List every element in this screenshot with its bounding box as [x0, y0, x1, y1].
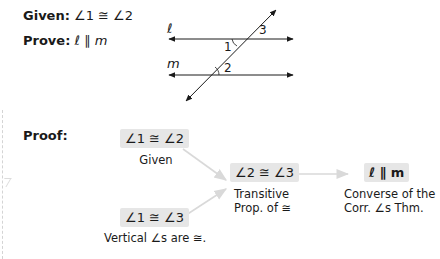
- angle-1-label: 1: [224, 40, 232, 54]
- proof-statement-1: ∠1 ≅ ∠2: [120, 129, 189, 148]
- arrow-given-to-transitive: [183, 149, 226, 180]
- proof-label: Proof:: [23, 128, 68, 143]
- angle-3-label: 3: [259, 23, 267, 37]
- angle-1-arc: [232, 39, 237, 46]
- line-l-label: ℓ: [167, 21, 172, 36]
- proof-reason-4-line-1: Converse of the: [344, 187, 435, 201]
- proof-reason-1: Given: [130, 153, 182, 167]
- proof-reason-2: Vertical ∠s are ≅.: [104, 231, 204, 245]
- proof-reason-4-line-2: Corr. ∠s Thm.: [344, 201, 435, 215]
- arrow-vertical-to-transitive: [183, 189, 226, 217]
- proof-statement-3: ∠2 ≅ ∠3: [230, 163, 299, 182]
- angle-2-label: 2: [224, 61, 232, 75]
- proof-reason-4: Converse of the Corr. ∠s Thm.: [344, 187, 435, 215]
- proof-reason-3-line-1: Transitive: [234, 187, 291, 201]
- line-m-label: m: [167, 56, 180, 71]
- proof-statement-2: ∠1 ≅ ∠3: [120, 208, 189, 227]
- proof-reason-3: Transitive Prop. of ≅: [234, 187, 291, 215]
- proof-conclusion: ℓ ∥ m: [364, 163, 409, 182]
- proof-reason-3-line-2: Prop. of ≅: [234, 201, 291, 215]
